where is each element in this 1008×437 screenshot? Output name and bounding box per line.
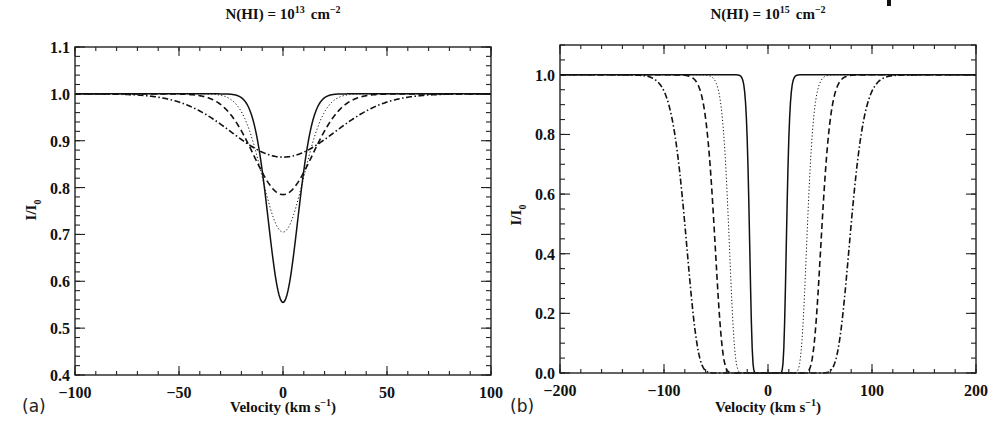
x-tick-label: 100 — [860, 382, 884, 399]
y-tick-label: 1.0 — [50, 86, 70, 103]
figure-canvas: N(HI) = 1013cm−2 −100−500501000.40.50.60… — [0, 0, 1008, 437]
curve-dashed — [75, 94, 491, 195]
panel-a-label: (a) — [22, 396, 46, 416]
y-tick-label: 0.6 — [50, 273, 70, 290]
panel-a-curves — [75, 94, 491, 303]
x-tick-label: −50 — [166, 384, 191, 401]
curve-dash-dot — [560, 75, 976, 373]
x-tick-label: 0 — [764, 382, 772, 399]
panel-b-title: N(HI) = 1015cm−2 — [710, 4, 825, 23]
panel-b-tick-labels: −200−10001002000.00.20.40.60.81.0 — [535, 67, 988, 399]
panel-b: N(HI) = 1015cm−2 −200−10001002000.00.20.… — [508, 4, 988, 416]
x-tick-label: 50 — [379, 384, 395, 401]
y-tick-label: 0.5 — [50, 320, 70, 337]
x-tick-label: −100 — [58, 384, 91, 401]
curve-dashed — [560, 75, 976, 373]
panel-b-ticks — [560, 45, 976, 373]
panel-a-ticks — [75, 47, 491, 375]
y-tick-label: 0.9 — [50, 133, 70, 150]
y-tick-label: 0.0 — [535, 365, 555, 382]
panel-a-title: N(HI) = 1013cm−2 — [225, 4, 340, 23]
y-tick-label: 1.0 — [535, 67, 555, 84]
curve-dash-dot — [75, 94, 491, 157]
curve-solid — [75, 94, 491, 303]
clipped-glyph — [887, 0, 891, 6]
x-tick-label: −200 — [543, 382, 576, 399]
y-tick-label: 0.6 — [535, 186, 555, 203]
panel-a: N(HI) = 1013cm−2 −100−500501000.40.50.60… — [22, 4, 503, 416]
y-tick-label: 0.7 — [50, 226, 70, 243]
x-tick-label: 200 — [964, 382, 988, 399]
panel-b-xlabel: Velocity (km s−1) — [715, 397, 821, 416]
curve-dotted — [560, 75, 976, 373]
y-tick-label: 1.1 — [50, 39, 70, 56]
panel-a-xlabel: Velocity (km s−1) — [230, 397, 336, 416]
panel-a-frame — [75, 47, 491, 375]
panel-b-curves — [560, 75, 976, 373]
x-tick-label: 100 — [479, 384, 503, 401]
y-tick-label: 0.8 — [50, 180, 70, 197]
curve-dotted — [75, 94, 491, 232]
panel-b-ylabel: I/I0 — [508, 205, 528, 226]
panel-b-label: (b) — [510, 396, 534, 416]
panel-a-ylabel: I/I0 — [23, 200, 43, 221]
curve-solid — [560, 75, 976, 373]
x-tick-label: −100 — [647, 382, 680, 399]
y-tick-label: 0.4 — [50, 367, 70, 384]
y-tick-label: 0.2 — [535, 305, 555, 322]
y-tick-label: 0.4 — [535, 246, 555, 263]
y-tick-label: 0.8 — [535, 126, 555, 143]
panel-b-frame — [560, 45, 976, 373]
